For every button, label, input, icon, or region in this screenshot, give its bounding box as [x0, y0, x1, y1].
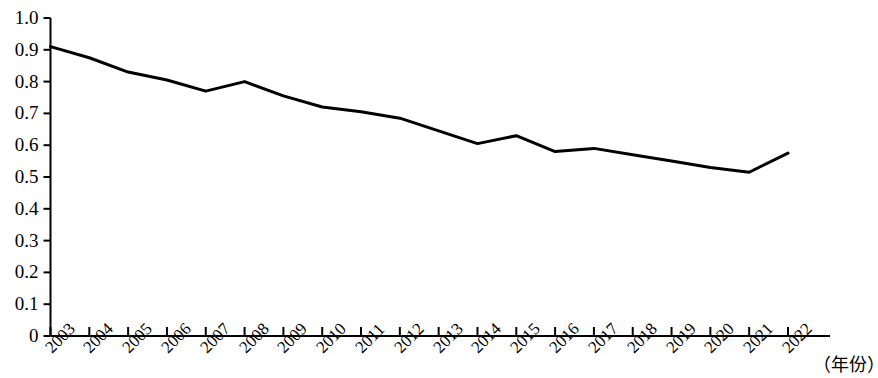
- y-axis-tick-label: 0.6: [0, 135, 39, 154]
- y-axis-tick-label: 0.2: [0, 262, 39, 281]
- y-axis-tick-label: 0.1: [0, 294, 39, 313]
- y-axis-tick-label: 0.3: [0, 231, 39, 250]
- series-group: [51, 47, 789, 173]
- y-axis-tick-label: 0.7: [0, 103, 39, 122]
- x-axis-title: （年份）: [813, 356, 878, 374]
- data-line-series-1: [51, 47, 789, 173]
- y-axis-tick-label: 0.8: [0, 72, 39, 91]
- y-axis-tick-label: 0.9: [0, 40, 39, 59]
- y-axis-tick-label: 0: [0, 326, 39, 345]
- y-axis-tick-label: 1.0: [0, 8, 39, 27]
- axes-group: [44, 18, 831, 336]
- y-axis-ticks: [44, 18, 51, 336]
- y-axis-tick-label: 0.4: [0, 199, 39, 218]
- y-axis-tick-label: 0.5: [0, 167, 39, 186]
